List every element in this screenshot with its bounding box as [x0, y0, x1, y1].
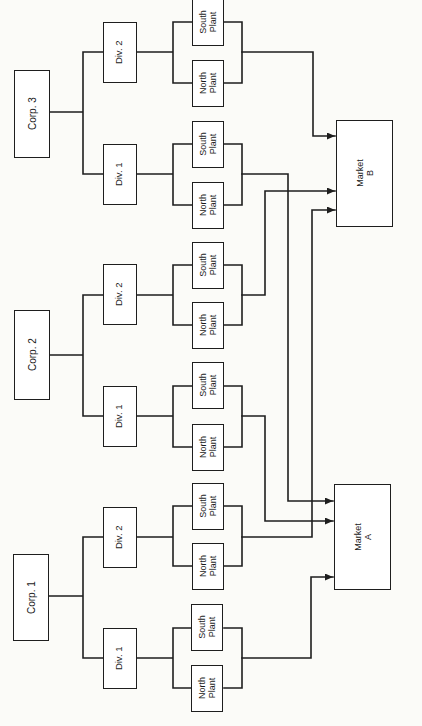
corp-1-div-1-north-plant-box: North Plant: [191, 665, 223, 712]
corp-1-label: Corp. 1: [25, 581, 36, 614]
corp-1-div-2-box: Div. 2: [103, 507, 137, 568]
corp-2-div-1-box: Div. 1: [103, 386, 137, 447]
corp-2-div-1-north-plant-label: North Plant: [198, 436, 218, 458]
corp-1-div-2-north-plant-label: North Plant: [198, 555, 218, 577]
corp-2-label: Corp. 2: [26, 339, 37, 372]
corp-1-div-2-south-plant-box: South Plant: [192, 483, 224, 530]
corp-2-div-1-plant-bracket: [137, 386, 192, 447]
corp-2-div-2-plant-bracket: [137, 265, 192, 325]
corp-3-div-1-output-bracket: [224, 144, 242, 205]
corp-3-div-2-south-plant-box: South Plant: [192, 0, 224, 46]
connector-corp-1-div-1-to-market-a: [242, 577, 333, 658]
corp-2-div-1-output-bracket: [224, 386, 242, 447]
corp-2-div-1-north-plant-box: North Plant: [192, 424, 224, 471]
connector-corp-3-div-1-to-market-a: [242, 174, 333, 501]
corp-2-div-2-box: Div. 2: [103, 264, 137, 325]
market-a-box: Market A: [334, 484, 391, 590]
org-market-diagram: Corp. 3 Div. 2 Div. 1 South Plant North …: [0, 0, 422, 726]
corp-3-div-2-label: Div. 2: [115, 41, 126, 65]
corp-3-box: Corp. 3: [14, 70, 50, 158]
corp-1-div-1-north-plant-label: North Plant: [197, 677, 217, 699]
corp-1-div-1-south-plant-label: South Plant: [197, 616, 217, 640]
corp-3-div-1-north-plant-box: North Plant: [192, 182, 224, 229]
corp-3-div-1-north-plant-label: North Plant: [198, 194, 218, 216]
corp-3-div-1-plant-bracket: [137, 144, 192, 205]
market-b-box: Market B: [336, 120, 393, 227]
corp-1-div-2-label: Div. 2: [115, 526, 126, 550]
corp-1-div-1-output-bracket: [224, 628, 242, 688]
corp-2-div-1-label: Div. 1: [115, 405, 126, 429]
corp-2-div-2-north-plant-box: North Plant: [192, 302, 224, 349]
corp-2-div-2-south-plant-label: South Plant: [198, 254, 218, 278]
market-a-label: Market A: [352, 523, 372, 551]
corp-2-div-2-label: Div. 2: [115, 283, 126, 307]
corp-3-div-2-south-plant-label: South Plant: [198, 11, 218, 35]
corp-2-connectors: [50, 191, 335, 521]
corp-1-div-1-label: Div. 1: [115, 647, 126, 671]
corp-3-div-2-box: Div. 2: [103, 22, 137, 83]
corp-2-div-1-south-plant-label: South Plant: [198, 374, 218, 398]
corp-3-div-1-south-plant-label: South Plant: [198, 133, 218, 157]
corp-1-div-2-plant-bracket: [137, 506, 192, 566]
corp-2-div-2-north-plant-label: North Plant: [198, 314, 218, 336]
corp-3-div-2-output-bracket: [224, 22, 242, 83]
corp-1-div-2-north-plant-box: North Plant: [192, 543, 224, 590]
corp-1-div-1-plant-bracket: [137, 628, 192, 688]
corp-2-div-2-south-plant-box: South Plant: [192, 242, 224, 289]
market-b-label: Market B: [354, 160, 374, 188]
corp-3-div-1-box: Div. 1: [103, 144, 137, 205]
corp-3-spine: [50, 52, 103, 174]
corp-1-spine: [49, 537, 103, 658]
corp-1-div-1-box: Div. 1: [103, 628, 137, 689]
corp-1-div-1-south-plant-box: South Plant: [191, 604, 223, 651]
corp-3-div-1-south-plant-box: South Plant: [192, 121, 224, 168]
corp-1-box: Corp. 1: [13, 554, 49, 641]
corp-2-div-2-output-bracket: [224, 265, 242, 325]
corp-3-label: Corp. 3: [26, 98, 37, 131]
corp-2-spine: [50, 295, 103, 416]
corp-3-div-2-north-plant-label: North Plant: [198, 72, 218, 94]
corp-1-div-2-south-plant-label: South Plant: [198, 495, 218, 519]
corp-3-div-1-label: Div. 1: [115, 163, 126, 187]
corp-3-div-2-plant-bracket: [137, 22, 192, 83]
corp-1-div-2-output-bracket: [224, 506, 242, 566]
connector-corp-3-div-2-to-market-b: [242, 52, 335, 136]
corp-2-box: Corp. 2: [14, 310, 50, 400]
corp-2-div-1-south-plant-box: South Plant: [192, 362, 224, 409]
corp-3-div-2-north-plant-box: North Plant: [192, 60, 224, 107]
